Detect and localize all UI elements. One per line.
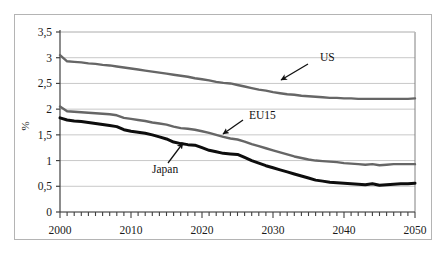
x-tick-label: 2020 xyxy=(191,224,214,236)
data-series-lines xyxy=(60,55,415,185)
y-tick-label: 2 xyxy=(46,103,52,115)
x-tick-label: 2050 xyxy=(404,224,427,236)
annotation-label-eu15: EU15 xyxy=(249,109,276,121)
y-tick-label: 0,5 xyxy=(38,180,53,193)
x-tick-label: 2000 xyxy=(49,224,72,236)
y-tick-label: 1,5 xyxy=(38,129,53,142)
series-line-japan xyxy=(60,118,415,185)
chart-figure: 00,511,522,533,5 20002010202020302040205… xyxy=(0,0,448,254)
x-tick-label: 2040 xyxy=(333,224,356,236)
x-tick-label: 2030 xyxy=(262,224,285,236)
annotation-arrow-eu15 xyxy=(223,120,243,134)
y-tick-label: 3,5 xyxy=(38,26,53,39)
x-tick-label: 2010 xyxy=(120,224,143,236)
series-line-eu15 xyxy=(60,107,415,166)
x-axis xyxy=(60,212,415,218)
series-line-us xyxy=(60,55,415,99)
y-tick-label: 2,5 xyxy=(38,77,53,90)
x-axis-tick-labels: 200020102020203020402050 xyxy=(49,224,427,236)
y-axis-title: % xyxy=(19,121,31,130)
y-axis-title-text: % xyxy=(19,121,31,130)
annotation-arrow-us xyxy=(281,64,308,80)
y-axis-tick-labels: 00,511,522,533,5 xyxy=(38,26,53,218)
y-tick-label: 3 xyxy=(46,52,52,64)
y-tick-label: 1 xyxy=(46,155,52,167)
annotation-label-us: US xyxy=(320,51,335,63)
annotation-label-japan: Japan xyxy=(152,163,178,176)
annotation-arrow-japan xyxy=(168,143,183,163)
line-chart: 00,511,522,533,5 20002010202020302040205… xyxy=(0,0,448,254)
y-tick-label: 0 xyxy=(46,206,52,218)
y-axis xyxy=(56,30,60,212)
